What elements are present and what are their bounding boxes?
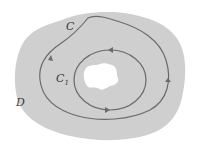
diagram-canvas: C C1 D xyxy=(0,0,200,149)
region-label: D xyxy=(15,96,25,109)
outer-curve-label: C xyxy=(66,20,75,33)
